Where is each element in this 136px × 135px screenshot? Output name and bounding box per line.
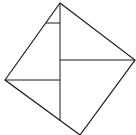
geometry-diagram [0, 0, 136, 135]
inner-segments [5, 3, 135, 121]
outer-square [5, 3, 135, 135]
